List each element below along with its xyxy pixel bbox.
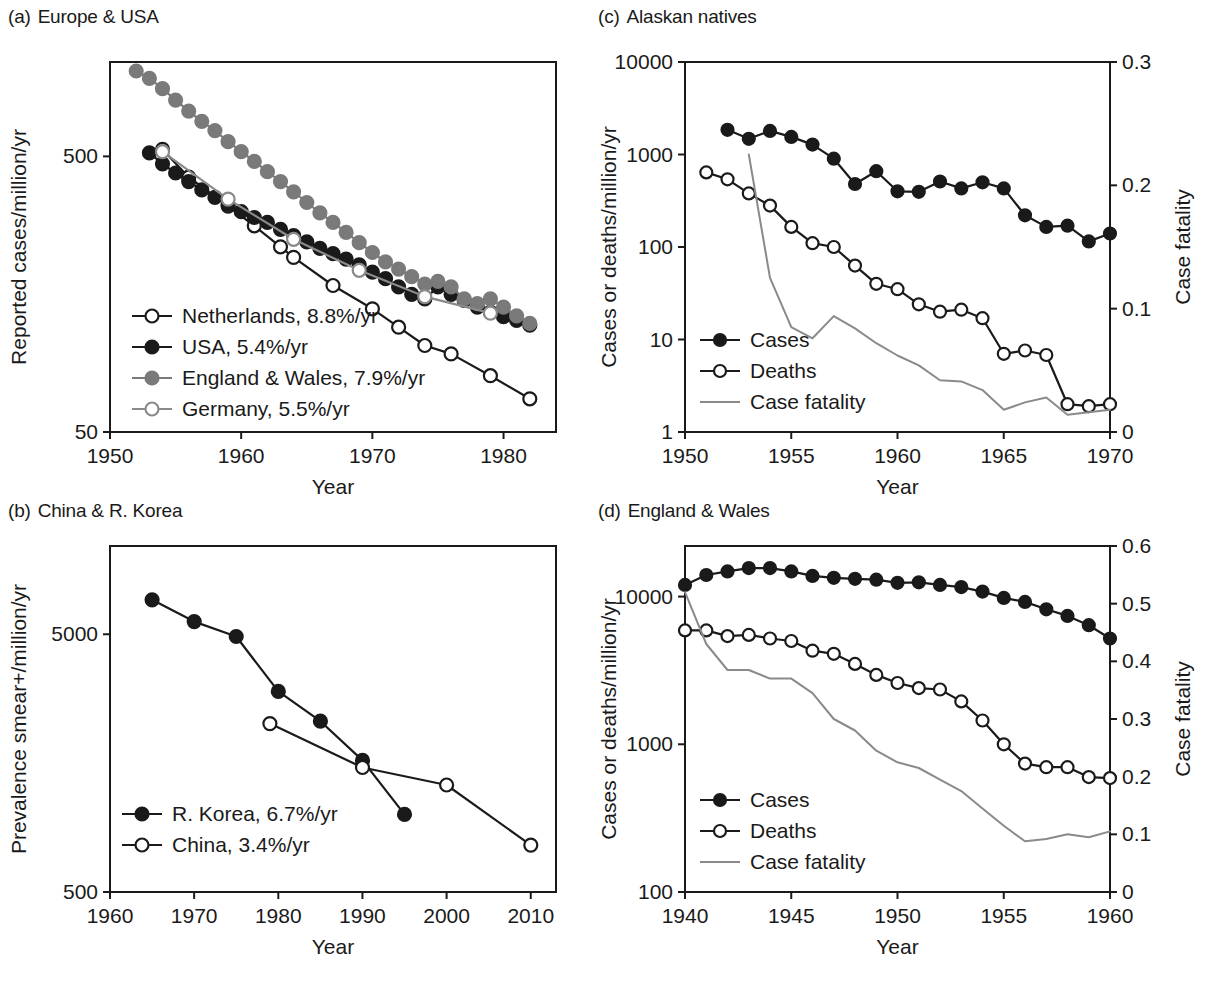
panel-b-title: (b)China & R. Korea [8,500,182,522]
y2-tick-label: 0.1 [1122,822,1151,845]
data-point [353,236,366,249]
data-point [445,280,458,293]
legend-label: England & Wales, 7.9%/yr [182,366,425,389]
legend-marker [714,794,726,806]
data-point [913,576,925,588]
data-point [314,715,327,728]
y2-tick-label: 0.3 [1122,50,1151,73]
data-point [222,135,235,148]
data-point [248,155,261,168]
panel-d-title-text: England & Wales [628,500,770,521]
legend-marker [146,372,159,385]
x-tick-label: 1960 [218,444,265,467]
data-point [143,146,156,159]
data-point [274,175,287,188]
series-line [270,724,531,846]
data-point [913,298,925,310]
data-point [934,579,946,591]
data-point [998,348,1010,360]
y-axis-title: Prevalence smear+/million/yr [7,584,30,854]
y-tick-label: 1000 [626,732,673,755]
panel-c: (c)Alaskan natives 19501955196019651970Y… [590,0,1213,500]
y-tick-label: 10000 [615,50,673,73]
data-point [700,569,712,581]
data-point [143,72,156,85]
y2-tick-label: 0.1 [1122,297,1151,320]
x-tick-label: 1970 [1087,444,1134,467]
legend-label: Case fatality [750,850,866,873]
data-point [722,565,734,577]
data-point [998,182,1010,194]
data-point [445,347,458,360]
figure-root: (a)Europe & USA 1950196019701980Year5050… [0,0,1213,998]
y-axis-title: Reported cases/million/yr [7,129,30,365]
data-point [156,145,169,158]
y2-axis-title: Case fatality [1171,661,1194,777]
x-tick-label: 1960 [1087,904,1134,927]
x-tick-label: 1950 [662,444,709,467]
data-point [431,275,444,288]
legend-label: Deaths [750,819,817,842]
data-point [287,251,300,264]
data-point [913,186,925,198]
data-point [1104,228,1116,240]
data-point [764,562,776,574]
data-point [998,592,1010,604]
data-point [418,278,431,291]
series-line [163,149,530,398]
y-tick-label: 1000 [626,143,673,166]
data-point [272,685,285,698]
panel-a-title: (a)Europe & USA [8,6,159,28]
data-point [169,167,182,180]
data-point [497,301,510,314]
data-point [892,677,904,689]
legend-marker [714,365,726,377]
x-tick-label: 1960 [874,444,921,467]
data-point [892,577,904,589]
y-tick-label: 500 [63,144,98,167]
data-point [934,306,946,318]
legend-label: Case fatality [750,390,866,413]
y2-axis-title: Case fatality [1171,189,1194,305]
data-point [679,579,691,591]
data-point [743,187,755,199]
data-point [955,581,967,593]
y-tick-label: 10 [650,328,673,351]
data-point [1062,398,1074,410]
data-point [955,695,967,707]
x-tick-label: 1940 [662,904,709,927]
data-point [263,717,276,730]
data-point [892,185,904,197]
data-point [1104,398,1116,410]
x-axis-title: Year [876,935,918,958]
data-point [1083,771,1095,783]
data-point [169,94,182,107]
data-point [327,216,340,229]
panel-c-title: (c)Alaskan natives [598,6,757,28]
data-point [807,645,819,657]
data-point [828,648,840,660]
panel-c-title-text: Alaskan natives [627,6,757,27]
data-point [235,145,248,158]
data-point [195,115,208,128]
data-point [182,175,195,188]
data-point [418,339,431,352]
data-point [1040,349,1052,361]
x-tick-label: 1970 [171,904,218,927]
legend-label: R. Korea, 6.7%/yr [172,802,338,825]
panel-c-chart: 19501955196019651970Year110100100010000C… [590,0,1213,500]
data-point [828,241,840,253]
panel-b-chart: 196019701980199020002010Year5005000Preva… [0,494,600,998]
x-tick-label: 1960 [87,904,134,927]
legend-label: Cases [750,788,810,811]
data-point [722,630,734,642]
data-point [300,196,313,209]
data-point [222,193,235,206]
data-point [977,176,989,188]
panel-a-title-text: Europe & USA [38,6,159,27]
y2-tick-label: 0.4 [1122,649,1152,672]
legend-marker [146,403,159,416]
data-point [146,593,159,606]
data-point [785,131,797,143]
legend-marker [146,341,159,354]
